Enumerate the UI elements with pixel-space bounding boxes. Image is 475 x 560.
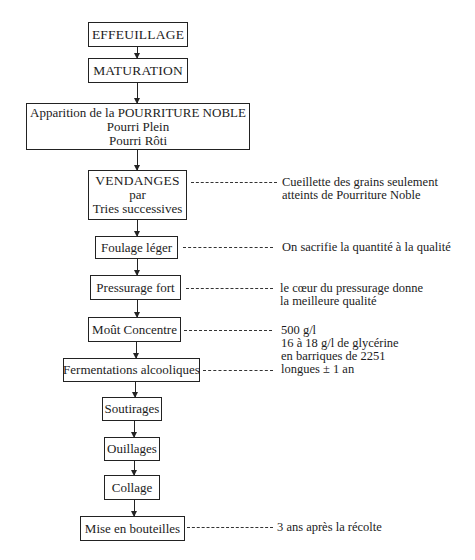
arrow-down-icon xyxy=(136,342,137,358)
note-line: On sacrifie la quantité à la qualité xyxy=(282,241,451,254)
arrow-down-icon xyxy=(137,220,138,236)
step-mout-concentre: Moût Concentre xyxy=(88,317,181,342)
note-foulage: On sacrifie la quantité à la qualité xyxy=(282,241,451,254)
step-pressurage: Pressurage fort xyxy=(90,275,181,300)
step-sublabel: par xyxy=(129,188,146,202)
step-label: MATURATION xyxy=(93,64,183,78)
dashed-connector xyxy=(203,370,273,371)
note-pressurage: le cœur du pressurage donne la meilleure… xyxy=(280,282,423,308)
arrow-down-icon xyxy=(137,47,138,58)
step-label: Apparition de la POURRITURE NOBLE xyxy=(30,106,246,120)
step-mise-en-bouteilles: Mise en bouteilles xyxy=(80,516,185,541)
step-label: Pressurage fort xyxy=(96,281,174,295)
dashed-connector xyxy=(191,182,277,183)
dashed-connector xyxy=(183,247,273,248)
note-vendanges: Cueillette des grains seulement atteints… xyxy=(282,176,438,202)
arrow-down-icon xyxy=(137,300,138,317)
note-mise: 3 ans après la récolte xyxy=(277,521,382,534)
note-line: longues ± 1 an xyxy=(281,363,399,376)
step-sublabel: Pourri Rôti xyxy=(109,134,167,148)
step-maturation: MATURATION xyxy=(88,58,188,83)
step-sublabel: Tries successives xyxy=(93,202,182,216)
step-label: VENDANGES xyxy=(95,174,179,188)
step-label: Soutirages xyxy=(105,402,160,416)
step-vendanges: VENDANGES par Tries successives xyxy=(88,170,187,220)
step-collage: Collage xyxy=(104,475,160,500)
arrow-down-icon xyxy=(134,421,135,437)
note-mout-fermentations: 500 g/l 16 à 18 g/l de glycérine en barr… xyxy=(281,324,399,376)
step-foulage: Foulage léger xyxy=(95,236,178,259)
step-label: EFFEUILLAGE xyxy=(92,28,184,42)
step-sublabel: Pourri Plein xyxy=(107,120,169,134)
note-line: 3 ans après la récolte xyxy=(277,521,382,534)
step-ouillages: Ouillages xyxy=(104,437,160,461)
note-line: atteints de Pourriture Noble xyxy=(282,189,438,202)
step-pourriture-noble: Apparition de la POURRITURE NOBLE Pourri… xyxy=(26,103,250,150)
step-effeuillage: EFFEUILLAGE xyxy=(88,22,188,47)
step-label: Foulage léger xyxy=(101,241,172,255)
step-label: Ouillages xyxy=(107,442,157,456)
dashed-connector xyxy=(186,288,273,289)
arrow-down-icon xyxy=(134,500,135,516)
arrow-down-icon xyxy=(135,382,136,397)
step-fermentations: Fermentations alcooliques xyxy=(63,358,200,382)
step-label: Fermentations alcooliques xyxy=(63,363,200,377)
arrow-down-icon xyxy=(137,259,138,275)
dashed-connector xyxy=(187,527,273,528)
arrow-down-icon xyxy=(134,461,135,475)
dashed-connector xyxy=(184,330,272,331)
step-label: Collage xyxy=(112,481,152,495)
arrow-down-icon xyxy=(137,150,138,170)
note-line: la meilleure qualité xyxy=(280,295,423,308)
arrow-down-icon xyxy=(137,83,138,103)
step-label: Mise en bouteilles xyxy=(85,522,180,536)
step-label: Moût Concentre xyxy=(92,323,177,337)
step-soutirages: Soutirages xyxy=(102,397,162,421)
